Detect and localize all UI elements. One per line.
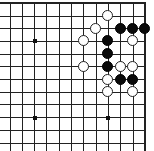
- star-point: [33, 116, 37, 120]
- black-stone: [102, 48, 113, 59]
- white-stone: [102, 10, 113, 21]
- black-stone: [127, 74, 138, 85]
- white-stone: [102, 74, 113, 85]
- white-stone: [102, 86, 113, 97]
- white-stone: [78, 61, 89, 72]
- black-stone: [115, 23, 126, 34]
- black-stone: [127, 23, 138, 34]
- star-point: [106, 116, 110, 120]
- white-stone: [127, 61, 138, 72]
- white-stone: [127, 35, 138, 46]
- star-point: [33, 39, 37, 43]
- white-stone: [78, 35, 89, 46]
- go-board[interactable]: [0, 0, 154, 151]
- grid-line-horizontal: [0, 104, 146, 105]
- white-stone: [127, 86, 138, 97]
- black-stone: [102, 35, 113, 46]
- grid-line-horizontal: [0, 16, 146, 17]
- grid-line-horizontal: [0, 130, 146, 131]
- white-stone: [115, 61, 126, 72]
- grid-line-horizontal: [0, 117, 146, 118]
- black-stone: [115, 74, 126, 85]
- grid-line-horizontal: [0, 143, 146, 144]
- white-stone: [90, 23, 101, 34]
- black-stone: [102, 61, 113, 72]
- grid-line-horizontal: [0, 54, 146, 55]
- black-stone: [139, 23, 150, 34]
- grid-line-horizontal: [0, 41, 146, 42]
- board-edge-top: [0, 2, 146, 4]
- grid-line-horizontal: [0, 92, 146, 93]
